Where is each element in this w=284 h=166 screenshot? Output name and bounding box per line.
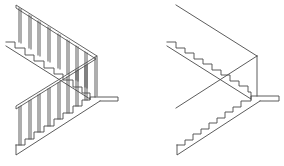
upper-handrail (16, 5, 97, 59)
newel-post (95, 56, 97, 97)
right-stair-figure (167, 5, 279, 155)
lower-flight-stringer-right (177, 101, 260, 155)
lower-flight-steps-right (177, 96, 279, 145)
lower-rail-line (176, 56, 257, 108)
stair-drawings (0, 0, 284, 166)
lower-balusters (19, 65, 87, 145)
upper-flight-steps-right (167, 42, 251, 99)
stair-diagram-canvas (0, 0, 284, 166)
upper-rail-line (176, 5, 257, 56)
upper-flight-stringer-right (167, 46, 251, 99)
left-stair-figure (6, 5, 118, 155)
